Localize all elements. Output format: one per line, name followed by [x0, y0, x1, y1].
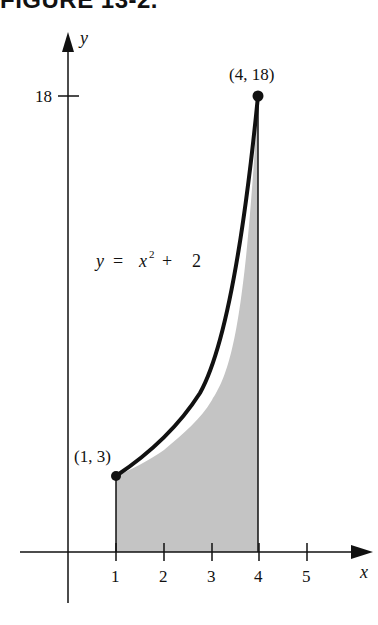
- x-axis-arrow-icon: [351, 545, 373, 559]
- eq-plus: +: [162, 251, 172, 271]
- equation-label: y = x 2 + 2: [94, 248, 201, 271]
- shaded-area: [116, 96, 258, 552]
- eq-y: y: [94, 251, 104, 271]
- x-tick-label-1: 1: [111, 567, 120, 586]
- eq-equals: =: [113, 251, 123, 271]
- y-axis-arrow-icon: [62, 32, 74, 52]
- x-axis-label: x: [359, 562, 368, 582]
- x-tick-label-5: 5: [302, 567, 311, 586]
- eq-x: x: [138, 251, 147, 271]
- point-start-marker: [111, 471, 121, 481]
- eq-exponent: 2: [149, 248, 155, 260]
- point-start-label: (1, 3): [74, 447, 111, 466]
- chart-canvas: y x 18 1 2 3 4 5 (1, 3) (4, 18) y = x 2 …: [0, 0, 378, 625]
- eq-constant: 2: [192, 251, 201, 271]
- point-end-label: (4, 18): [229, 65, 274, 84]
- x-tick-label-4: 4: [254, 567, 263, 586]
- y-tick-label-18: 18: [35, 87, 52, 106]
- y-axis-label: y: [78, 28, 88, 48]
- x-tick-label-2: 2: [159, 567, 168, 586]
- x-tick-label-3: 3: [207, 567, 216, 586]
- point-end-marker: [253, 91, 264, 102]
